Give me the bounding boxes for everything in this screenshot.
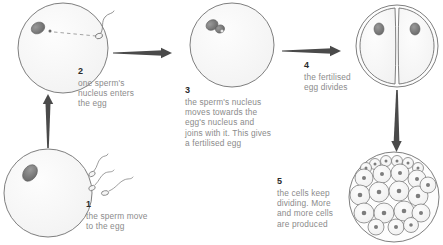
sperm-3 [101, 177, 133, 196]
fertilisation-diagram: 1 the sperm move to the egg 2 one sperm'… [0, 0, 443, 245]
arrow-step2-to-step3 [113, 48, 172, 58]
egg-cell [4, 149, 92, 237]
step-text-5: the cells keep dividing. More and more c… [277, 188, 333, 229]
arrow-step3-to-step4 [282, 46, 341, 56]
step-text-4: the fertilised egg divides [304, 72, 351, 92]
step-number-5: 5 [277, 176, 333, 186]
nucleus-left [374, 23, 384, 35]
nucleus-right [410, 23, 420, 35]
illustration-step-5 [349, 152, 439, 242]
caption-step-4: 4 the fertilised egg divides [304, 60, 351, 92]
step-number-2: 2 [78, 66, 134, 76]
step-text-3: the sperm's nucleus moves towards the eg… [185, 97, 271, 148]
caption-step-1: 1 the sperm move to the egg [86, 199, 148, 231]
illustration-step-4 [356, 5, 438, 87]
arrow-step4-to-step5 [391, 90, 401, 152]
step-text-1: the sperm move to the egg [86, 211, 148, 231]
step-number-1: 1 [86, 199, 148, 209]
caption-step-3: 3 the sperm's nucleus moves towards the … [185, 85, 271, 148]
step-text-2: one sperm's nucleus enters the egg [78, 78, 134, 109]
illustration-step-3 [190, 3, 274, 87]
arrow-step1-to-step2 [43, 94, 53, 148]
caption-step-5: 5 the cells keep dividing. More and more… [277, 176, 333, 229]
sperm-group [88, 154, 133, 196]
caption-step-2: 2 one sperm's nucleus enters the egg [78, 66, 134, 109]
step-number-3: 3 [185, 85, 271, 95]
step-number-4: 4 [304, 60, 351, 70]
sperm-1 [88, 154, 108, 178]
